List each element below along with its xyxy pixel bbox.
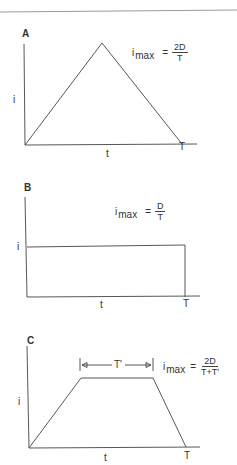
panel-a-equation: i max = 2D T [132, 42, 188, 63]
panel-b-y-label: i [17, 242, 19, 252]
eq-sign: = [190, 361, 196, 372]
eq-lhs: i [115, 206, 117, 217]
panel-a-y-label: i [13, 95, 15, 105]
panel-b-end-label: T [183, 299, 189, 309]
eq-denominator: T [155, 212, 165, 222]
eq-numerator: 2D [172, 42, 188, 53]
panel-a-x-label: t [106, 149, 109, 159]
eq-subscript: max [166, 364, 185, 375]
panel-a-end-label: T [179, 142, 185, 152]
panel-b-rectangle-curve [27, 245, 185, 297]
panel-b-graph [25, 197, 200, 297]
panel-a-x-axis [25, 144, 197, 145]
eq-denominator: T [175, 53, 185, 63]
panel-c-trapezoid-curve [29, 378, 186, 448]
eq-fraction: 2D T [172, 42, 188, 63]
panel-c-end-label: T [184, 451, 190, 461]
panel-c-y-axis [27, 346, 29, 448]
panel-b-label: B [24, 183, 31, 193]
panel-c-plateau-label: T' [114, 360, 122, 370]
panel-c-x-axis [29, 447, 200, 448]
panel-b-x-axis [27, 296, 200, 297]
eq-numerator: D [155, 201, 166, 212]
panel-c-y-label: i [18, 397, 20, 407]
eq-fraction: D T [155, 201, 166, 222]
eq-subscript: max [135, 50, 154, 61]
eq-denominator: T+T' [199, 367, 221, 377]
panel-a-y-axis [24, 44, 25, 145]
eq-lhs: i [163, 361, 165, 372]
eq-sign: = [162, 47, 168, 58]
panel-b-x-label: t [100, 300, 103, 310]
panel-c-x-label: t [104, 453, 107, 463]
diagram-canvas [0, 0, 237, 465]
eq-subscript: max [118, 209, 137, 220]
panel-c-equation: i max = 2D T+T' [163, 356, 221, 377]
eq-lhs: i [132, 47, 134, 58]
eq-sign: = [145, 206, 151, 217]
panel-c-label: C [27, 336, 34, 346]
eq-fraction: 2D T+T' [199, 356, 221, 377]
panel-a-label: A [22, 29, 29, 39]
eq-numerator: 2D [202, 356, 218, 367]
top-rule [0, 10, 237, 12]
panel-b-y-axis [25, 197, 27, 297]
panel-b-equation: i max = D T [115, 201, 165, 222]
